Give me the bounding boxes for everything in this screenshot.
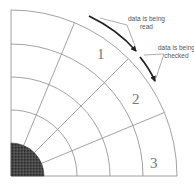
sector-label-1: 1 <box>97 47 105 62</box>
check-annotation-line1: data is being <box>158 44 194 52</box>
check-annotation: data is being checked <box>158 44 194 60</box>
disk-platter-diagram <box>0 0 194 187</box>
sector-lines <box>24 23 165 164</box>
read-annotation-line2: read <box>128 23 165 31</box>
sector-line-3 <box>24 23 75 146</box>
check-annotation-line2: checked <box>158 52 194 60</box>
check-arrow <box>140 57 155 81</box>
read-annotation-line1: data is being <box>128 15 165 23</box>
sector-line-2 <box>34 59 128 153</box>
read-annotation: data is being read <box>128 15 165 31</box>
sector-label-3: 3 <box>150 156 158 171</box>
sector-line-1 <box>41 112 164 163</box>
sector-label-2: 2 <box>132 92 140 107</box>
